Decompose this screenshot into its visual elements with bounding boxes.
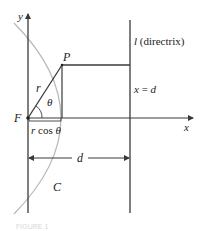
focus-f-label: F: [13, 111, 22, 125]
figure-caption: FIGURE 1: [16, 223, 48, 230]
radius-r-label: r: [36, 81, 41, 95]
theta-arc-icon: [36, 106, 42, 118]
directrix-text: (directrix): [137, 35, 185, 48]
theta-label: θ: [47, 96, 53, 108]
x-eq-d-eq: =: [139, 83, 151, 95]
x-equals-d-label: x = d: [133, 83, 157, 95]
r-cos-theta-cos: cos: [35, 124, 55, 136]
focus-point: [26, 116, 30, 120]
r-cos-theta-theta: θ: [55, 124, 61, 136]
point-p: [61, 64, 64, 67]
curve-c-label: C: [53, 180, 62, 194]
point-p-label: P: [62, 50, 71, 64]
x-eq-d-d: d: [151, 83, 157, 95]
conic-directrix-diagram: y x P F r θ r cos θ l (directrix) x = d …: [0, 0, 206, 231]
directrix-label: l (directrix): [134, 35, 185, 48]
distance-d-label: d: [77, 151, 84, 165]
y-axis-label: y: [17, 10, 23, 22]
x-axis-label: x: [183, 121, 189, 133]
r-cos-theta-label: r cos θ: [31, 124, 61, 136]
